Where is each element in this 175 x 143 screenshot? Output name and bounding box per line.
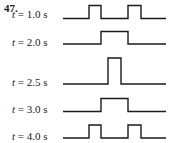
pulse-waveforms-diagram bbox=[0, 0, 175, 143]
waveform-2 bbox=[63, 32, 166, 45]
waveform-3 bbox=[63, 58, 166, 84]
waveform-4 bbox=[63, 99, 166, 112]
waveform-5 bbox=[63, 125, 166, 138]
waveform-1 bbox=[63, 6, 166, 19]
